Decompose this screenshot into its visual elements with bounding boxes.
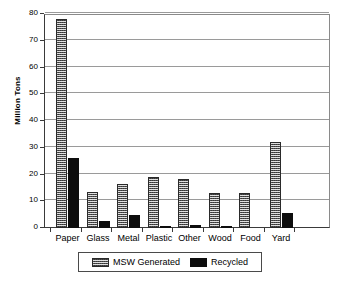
bar-group [148,14,171,228]
y-tick-label: 20 [29,169,38,178]
y-tick-label: 50 [29,88,38,97]
chart-legend: MSW Generated Recycled [78,252,262,272]
legend-label-msw-generated: MSW Generated [113,257,180,267]
hatched-swatch-icon [92,258,109,267]
x-axis-label: Food [240,232,261,244]
bar-msw-generated [209,193,220,228]
y-tick-label: 30 [29,142,38,151]
x-axis-label: Paper [55,232,79,244]
x-axis-labels: PaperGlassMetalPlasticOtherWoodFoodYard [44,232,330,246]
y-tick-label: 0 [34,222,38,231]
x-axis-label: Yard [272,232,290,244]
y-tick-label: 40 [29,115,38,124]
y-tick-label: 10 [29,195,38,204]
gridline [45,12,329,13]
bar-group [209,14,232,228]
x-axis-label: Other [178,232,201,244]
bar-group [178,14,201,228]
legend-item-recycled: Recycled [190,257,248,267]
bar-msw-generated [178,179,189,228]
bar-group [87,14,110,228]
x-axis-label: Metal [117,232,139,244]
bar-chart: Million Tons 01020304050607080 PaperGlas… [0,0,339,284]
legend-label-recycled: Recycled [211,257,248,267]
bar-recycled [282,213,293,229]
bar-group [56,14,79,228]
bar-msw-generated [270,142,281,228]
bar-msw-generated [56,19,67,228]
x-axis-label: Wood [208,232,231,244]
bar-msw-generated [239,193,250,228]
y-axis-ticks: 01020304050607080 [0,0,44,229]
bar-group [239,14,262,228]
y-tick-label: 70 [29,35,38,44]
bar-msw-generated [117,184,128,228]
bar-msw-generated [148,177,159,228]
legend-item-msw-generated: MSW Generated [92,257,180,267]
y-tick-label: 80 [29,8,38,17]
solid-swatch-icon [190,258,207,267]
bar-group [117,14,140,228]
x-axis-label: Plastic [146,232,173,244]
x-axis-label: Glass [86,232,109,244]
bar-recycled [99,221,110,228]
bars-layer [44,14,330,228]
bar-recycled [68,158,79,228]
y-tick-label: 60 [29,62,38,71]
bar-recycled [129,215,140,228]
bar-group [270,14,293,228]
bar-msw-generated [87,192,98,228]
